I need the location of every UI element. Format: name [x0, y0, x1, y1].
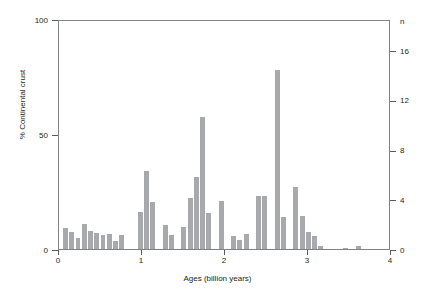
y-axis-right-tick-label: 0	[400, 246, 428, 255]
y-axis-left-tick	[52, 20, 58, 21]
bar	[293, 187, 298, 249]
x-axis-tick-label: 0	[48, 256, 68, 265]
bar	[82, 224, 87, 249]
bar	[107, 234, 112, 249]
bar	[343, 248, 348, 249]
x-axis-tick-label: 4	[380, 256, 400, 265]
bar	[300, 216, 305, 249]
bar	[256, 196, 261, 249]
bar	[88, 231, 93, 249]
bar	[119, 235, 124, 249]
x-axis-tick	[307, 250, 308, 255]
y-axis-right-tick-label: 16	[400, 47, 428, 56]
y-axis-right-tick	[390, 151, 396, 152]
bar	[237, 240, 242, 249]
y-axis-right-tick	[390, 200, 396, 201]
y-axis-right-tick	[390, 101, 396, 102]
x-axis-tick	[390, 250, 391, 255]
bar	[113, 241, 118, 249]
bar	[318, 246, 323, 249]
y-axis-left-title: % Continental crust	[18, 45, 27, 165]
y-axis-right-tick-label: 8	[400, 146, 428, 155]
y-axis-right-title: n	[400, 17, 404, 26]
x-axis-tick-label: 2	[214, 256, 234, 265]
bar	[150, 202, 155, 249]
bar	[144, 171, 149, 249]
bar	[94, 233, 99, 249]
y-axis-right-tick-label: 12	[400, 96, 428, 105]
bar	[138, 212, 143, 249]
bar	[181, 227, 186, 249]
y-axis-right-tick-label: 4	[400, 196, 428, 205]
chart-figure: % Continental crust n Ages (billion year…	[0, 0, 435, 297]
bar	[219, 201, 224, 249]
x-axis-tick	[224, 250, 225, 255]
y-axis-left-tick	[52, 135, 58, 136]
bar	[188, 198, 193, 249]
bar	[200, 117, 205, 249]
bar	[356, 246, 361, 249]
x-axis-tick-label: 3	[297, 256, 317, 265]
x-axis-title: Ages (billion years)	[0, 274, 435, 283]
bar	[306, 232, 311, 249]
bar	[262, 196, 267, 249]
plot-area	[58, 20, 390, 250]
bar	[69, 232, 74, 249]
bar	[63, 228, 68, 249]
bar	[281, 217, 286, 249]
bar	[194, 177, 199, 249]
bar	[101, 235, 106, 249]
bar	[169, 235, 174, 249]
x-axis-tick-label: 1	[131, 256, 151, 265]
bar	[163, 225, 168, 249]
bar	[76, 238, 81, 250]
y-axis-left-tick-label: 0	[20, 246, 48, 255]
bar	[312, 236, 317, 249]
bars-layer	[59, 21, 389, 249]
x-axis-tick	[141, 250, 142, 255]
y-axis-right-tick	[390, 51, 396, 52]
bar	[244, 234, 249, 249]
y-axis-left-tick-label: 100	[20, 16, 48, 25]
bar	[231, 236, 236, 249]
bar	[206, 213, 211, 249]
bar	[275, 70, 280, 249]
x-axis-tick	[58, 250, 59, 255]
y-axis-left-tick-label: 50	[20, 131, 48, 140]
